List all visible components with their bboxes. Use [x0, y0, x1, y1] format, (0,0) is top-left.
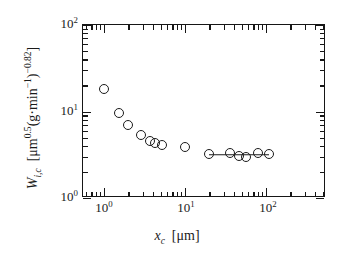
x-major-tick — [185, 188, 186, 196]
x-minor-tick — [253, 192, 254, 197]
y-minor-tick-right — [320, 120, 325, 121]
x-tick-label-1: 100 — [95, 200, 112, 216]
y-major-tick-right — [316, 112, 324, 113]
x-major-tick-top — [104, 25, 105, 33]
y-major-tick — [83, 198, 91, 199]
figure-container: 102 101 100 100 101 102 xc [μm] Wi,c [μm… — [0, 0, 354, 260]
y-minor-tick-right — [320, 38, 325, 39]
y-major-tick — [83, 25, 91, 26]
x-tick-label-100: 102 — [259, 200, 276, 216]
y-tick-label-1: 100 — [48, 189, 78, 205]
data-point — [253, 148, 263, 158]
y-minor-tick-right — [320, 172, 325, 173]
y-minor-tick — [83, 59, 88, 60]
x-minor-tick — [177, 192, 178, 197]
x-minor-tick-top — [100, 25, 101, 30]
x-minor-tick-top — [128, 25, 129, 30]
x-minor-tick — [96, 192, 97, 197]
y-major-tick-right — [316, 198, 324, 199]
data-point — [264, 149, 274, 159]
x-minor-tick — [323, 192, 324, 197]
x-minor-tick-top — [96, 25, 97, 30]
y-minor-tick — [83, 38, 88, 39]
x-minor-tick — [290, 192, 291, 197]
y-minor-tick — [83, 172, 88, 173]
plot-frame — [82, 24, 325, 197]
x-minor-tick-top — [161, 25, 162, 30]
x-minor-tick-top — [253, 25, 254, 30]
x-minor-tick-top — [290, 25, 291, 30]
x-minor-tick — [167, 192, 168, 197]
y-tick-label-10: 101 — [48, 103, 78, 119]
x-axis-title: xc [μm] — [154, 228, 199, 244]
y-minor-tick-right — [320, 138, 325, 139]
data-point — [241, 152, 251, 162]
y-minor-tick — [83, 33, 88, 34]
data-point — [123, 120, 133, 130]
x-minor-tick-top — [262, 25, 263, 30]
x-major-tick-top — [266, 25, 267, 33]
x-minor-tick-top — [224, 25, 225, 30]
y-minor-tick — [83, 125, 88, 126]
x-minor-tick-top — [248, 25, 249, 30]
x-minor-tick-top — [234, 25, 235, 30]
data-point — [180, 142, 190, 152]
x-minor-tick-top — [209, 25, 210, 30]
y-minor-tick — [83, 51, 88, 52]
x-minor-tick — [305, 192, 306, 197]
x-minor-tick — [153, 192, 154, 197]
y-minor-tick — [83, 131, 88, 132]
x-minor-tick-top — [167, 25, 168, 30]
x-minor-tick-top — [242, 25, 243, 30]
x-minor-tick — [181, 192, 182, 197]
x-minor-tick — [315, 192, 316, 197]
y-minor-tick-right — [320, 146, 325, 147]
x-minor-tick-top — [181, 25, 182, 30]
x-minor-tick — [128, 192, 129, 197]
x-minor-tick-top — [143, 25, 144, 30]
y-minor-tick-right — [320, 51, 325, 52]
x-tick-label-10: 101 — [177, 200, 194, 216]
x-minor-tick-top — [91, 25, 92, 30]
y-minor-tick — [83, 70, 88, 71]
data-point — [114, 108, 124, 118]
y-minor-tick-right — [320, 29, 325, 30]
y-major-tick — [83, 112, 91, 113]
data-point — [99, 84, 109, 94]
y-minor-tick — [83, 157, 88, 158]
x-major-tick — [104, 188, 105, 196]
y-minor-tick — [83, 146, 88, 147]
y-minor-tick-right — [320, 59, 325, 60]
y-minor-tick — [83, 85, 88, 86]
y-major-tick-right — [316, 25, 324, 26]
y-minor-tick-right — [320, 33, 325, 34]
y-minor-tick — [83, 138, 88, 139]
y-minor-tick-right — [320, 131, 325, 132]
data-point — [204, 149, 214, 159]
y-minor-tick-right — [320, 115, 325, 116]
x-minor-tick — [86, 192, 87, 197]
x-minor-tick — [262, 192, 263, 197]
x-minor-tick — [224, 192, 225, 197]
y-axis-title: Wi,c [μm0.5(g·min−1)−0.82] — [25, 3, 41, 233]
y-minor-tick — [83, 44, 88, 45]
x-minor-tick — [172, 192, 173, 197]
x-minor-tick — [161, 192, 162, 197]
y-minor-tick-right — [320, 125, 325, 126]
y-minor-tick — [83, 120, 88, 121]
y-minor-tick-right — [320, 85, 325, 86]
y-minor-tick — [83, 29, 88, 30]
x-minor-tick — [209, 192, 210, 197]
x-minor-tick — [258, 192, 259, 197]
y-minor-tick — [83, 115, 88, 116]
data-point — [157, 140, 167, 150]
x-minor-tick-top — [305, 25, 306, 30]
y-minor-tick-right — [320, 70, 325, 71]
x-minor-tick — [248, 192, 249, 197]
y-minor-tick-right — [320, 157, 325, 158]
x-minor-tick — [143, 192, 144, 197]
x-major-tick — [266, 188, 267, 196]
x-minor-tick-top — [177, 25, 178, 30]
x-major-tick-top — [185, 25, 186, 33]
x-minor-tick — [100, 192, 101, 197]
